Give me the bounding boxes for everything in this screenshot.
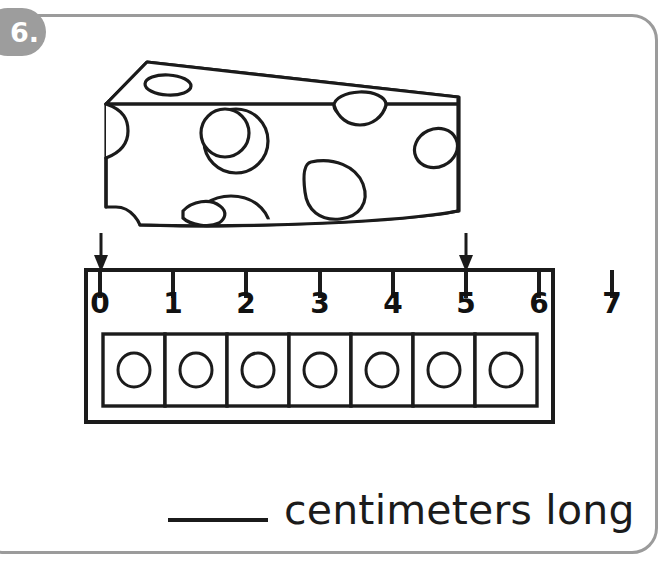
ruler-tick-label-2: 2 bbox=[236, 290, 255, 318]
answer-row: centimeters long bbox=[168, 490, 638, 550]
ruler-tick-label-1: 1 bbox=[163, 290, 182, 318]
answer-blank-input[interactable] bbox=[168, 518, 268, 522]
ruler-tick-label-3: 3 bbox=[310, 290, 329, 318]
answer-unit-label: centimeters long bbox=[284, 490, 635, 531]
problem-frame bbox=[0, 14, 658, 554]
ruler-tick-label-4: 4 bbox=[383, 290, 402, 318]
problem-number-badge: 6. bbox=[0, 8, 46, 56]
worksheet-problem: 6. bbox=[0, 0, 670, 569]
ruler-tick-label-6: 6 bbox=[529, 290, 548, 318]
ruler-tick-label-0: 0 bbox=[90, 290, 109, 318]
problem-number-label: 6. bbox=[10, 19, 39, 46]
ruler-tick-label-5: 5 bbox=[456, 290, 475, 318]
ruler-tick-label-7: 7 bbox=[602, 290, 621, 318]
